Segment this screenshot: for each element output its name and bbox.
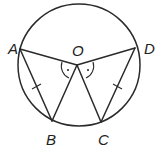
angle-dot-COD bbox=[87, 69, 89, 71]
segment-AB bbox=[20, 49, 52, 121]
segment-CD bbox=[101, 48, 135, 122]
label-O: O bbox=[72, 42, 84, 59]
segment-OB bbox=[52, 65, 77, 121]
segment-OC bbox=[77, 65, 101, 122]
segment-OD bbox=[77, 48, 135, 65]
label-B: B bbox=[46, 131, 56, 148]
geometry-diagram: A O D B C bbox=[0, 0, 164, 152]
segment-OA bbox=[20, 49, 77, 65]
angle-dot-AOB bbox=[67, 69, 69, 71]
label-C: C bbox=[98, 131, 109, 148]
label-D: D bbox=[144, 40, 155, 57]
label-A: A bbox=[7, 40, 18, 57]
